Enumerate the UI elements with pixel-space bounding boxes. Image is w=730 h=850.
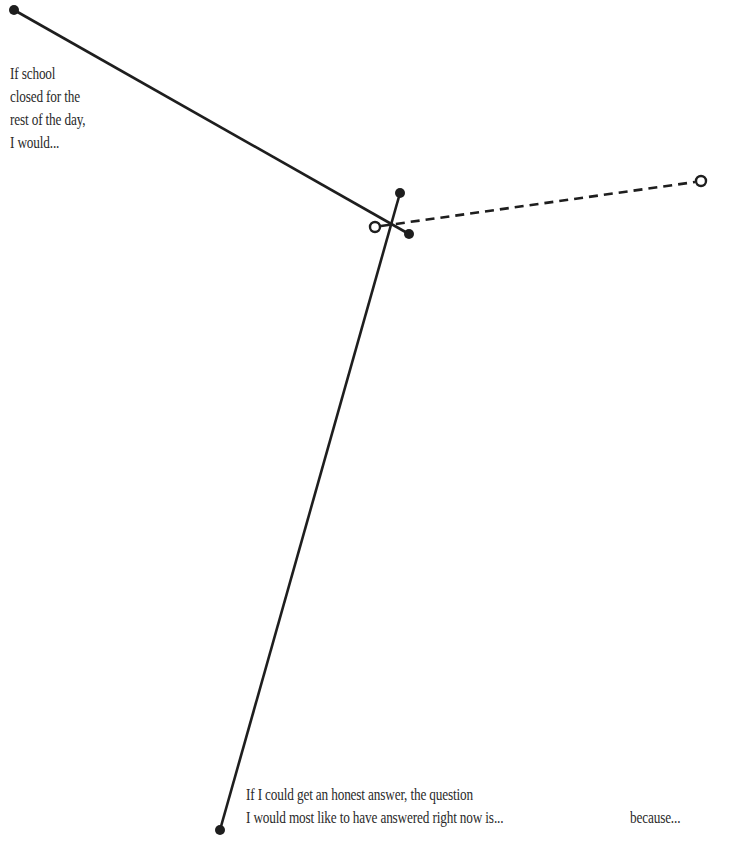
prompt-line: I would...: [10, 131, 85, 154]
prompt-because: because...: [630, 806, 680, 829]
connector-diagram: [0, 0, 730, 850]
prompt-line: closed for the: [10, 85, 85, 108]
open-circle-icon: [696, 176, 706, 186]
endpoint-dot-icon: [395, 188, 405, 198]
dashed-connector-because: [370, 176, 706, 232]
prompt-line: because...: [630, 806, 680, 829]
prompt-line: rest of the day,: [10, 108, 85, 131]
endpoint-dot-icon: [404, 229, 414, 239]
prompt-line: If I could get an honest answer, the que…: [246, 783, 503, 806]
open-circle-icon: [370, 222, 380, 232]
solid-connector-question: [215, 188, 405, 835]
prompt-school-closed: If school closed for the rest of the day…: [10, 62, 85, 154]
endpoint-dot-icon: [215, 825, 225, 835]
prompt-line: If school: [10, 62, 85, 85]
endpoint-dot-icon: [9, 5, 19, 15]
prompt-honest-answer: If I could get an honest answer, the que…: [246, 783, 503, 829]
prompt-line: I would most like to have answered right…: [246, 806, 503, 829]
